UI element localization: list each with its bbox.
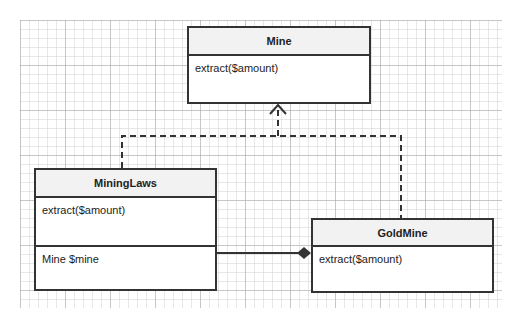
class-mininglaws[interactable]: MiningLaws extract($amount) Mine $mine xyxy=(34,168,217,291)
class-method: extract($amount) xyxy=(36,198,215,245)
class-mine[interactable]: Mine extract($amount) xyxy=(187,26,371,104)
filled-diamond-icon xyxy=(297,247,311,259)
class-goldmine[interactable]: GoldMine extract($amount) xyxy=(311,218,494,293)
class-name: GoldMine xyxy=(313,220,492,247)
class-name: Mine xyxy=(189,28,369,56)
class-method: extract($amount) xyxy=(313,247,492,265)
class-attribute: Mine $mine xyxy=(36,245,215,265)
class-name: MiningLaws xyxy=(36,170,215,198)
class-method: extract($amount) xyxy=(189,56,369,74)
